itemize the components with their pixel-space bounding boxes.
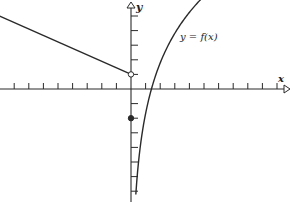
function-graph: y x y = f(x) xyxy=(0,0,290,202)
filled-dot xyxy=(128,116,133,121)
axes xyxy=(0,2,290,202)
x-axis-arrow xyxy=(284,85,290,93)
x-axis-label: x xyxy=(277,73,285,84)
log-curve xyxy=(136,0,204,194)
y-axis-arrow xyxy=(127,2,135,8)
left-line-branch xyxy=(0,16,129,73)
series xyxy=(0,0,204,194)
ticks xyxy=(14,16,277,191)
y-axis-label: y xyxy=(135,1,144,14)
curve-label: y = f(x) xyxy=(179,31,218,42)
open-circle xyxy=(128,72,133,77)
